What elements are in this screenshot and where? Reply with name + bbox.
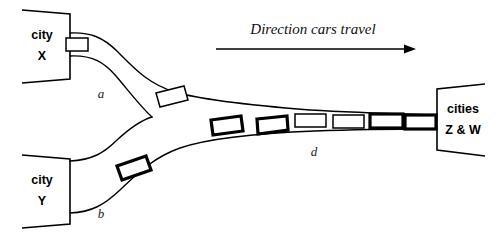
- car-road-d-1: [211, 116, 243, 135]
- car-road-d-2: [257, 116, 288, 134]
- road-a-label: a: [98, 86, 105, 101]
- cities-zw-label-line1: cities: [447, 102, 479, 116]
- road-a-upper-edge: [70, 33, 437, 115]
- city-y-box: [22, 155, 70, 228]
- car-road-d-3: [295, 114, 326, 127]
- diagram-canvas: city X city Y cities Z & W: [0, 0, 502, 242]
- cities-zw-box-group: cities Z & W: [437, 84, 485, 156]
- road-d-label: d: [311, 144, 318, 159]
- car-road-d-4: [333, 115, 364, 128]
- road-b-upper-edge: [70, 117, 152, 161]
- city-y-box-group: city Y: [22, 155, 70, 228]
- right-arrow-icon: [216, 45, 416, 54]
- city-x-label-line2: X: [38, 49, 47, 63]
- traffic-merge-diagram: city X city Y cities Z & W: [0, 0, 502, 242]
- city-x-label-line1: city: [31, 28, 53, 42]
- car-road-d-5: [370, 114, 403, 128]
- city-x-box: [22, 10, 70, 83]
- car-city-x-exit: [66, 38, 88, 51]
- cities-zw-label-line2: Z & W: [445, 123, 481, 137]
- road-b-label: b: [98, 206, 105, 221]
- direction-annotation-group: Direction cars travel: [216, 21, 416, 54]
- car-road-a-1: [156, 86, 188, 107]
- road-a-lower-edge: [70, 56, 152, 117]
- car-road-b-1: [117, 156, 151, 180]
- direction-cars-travel-label: Direction cars travel: [249, 21, 375, 37]
- cities-zw-box: [437, 84, 485, 156]
- city-x-box-group: city X: [22, 10, 70, 83]
- city-y-label-line2: Y: [38, 194, 47, 208]
- city-y-label-line1: city: [31, 173, 53, 187]
- car-road-d-6: [405, 115, 436, 129]
